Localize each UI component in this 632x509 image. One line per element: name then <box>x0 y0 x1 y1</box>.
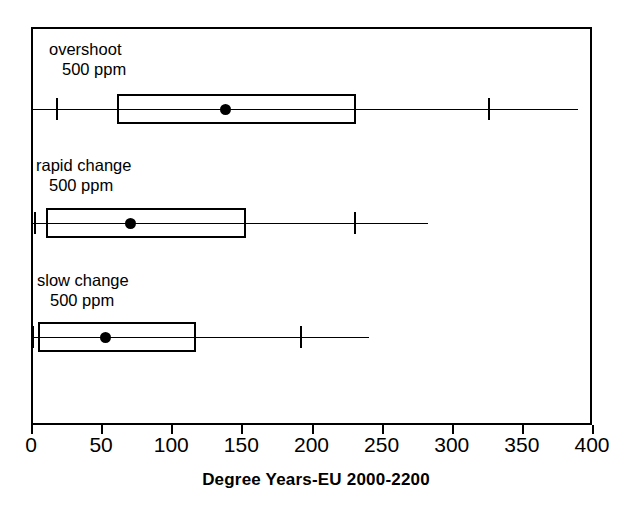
x-axis-label-150: 150 <box>224 433 259 457</box>
group-label-slow-change-line2: 500 ppm <box>37 290 129 310</box>
x-axis-tick-labels: 0 50 100 150 200 250 300 350 400 <box>0 433 632 461</box>
group-label-rapid-change-line2: 500 ppm <box>36 175 131 195</box>
x-axis-label-350: 350 <box>504 433 539 457</box>
median-marker-rapid-change <box>125 218 136 229</box>
x-axis-label-250: 250 <box>364 433 399 457</box>
x-axis-label-50: 50 <box>89 433 112 457</box>
whisker-cap-low-slow-change <box>32 326 34 348</box>
box-slow-change <box>38 322 196 352</box>
x-axis-label-400: 400 <box>574 433 609 457</box>
group-label-rapid-change: rapid change 500 ppm <box>36 155 131 195</box>
whisker-cap-high-rapid-change <box>354 212 356 234</box>
plot-area: overshoot 500 ppm rapid change 500 ppm s… <box>31 27 592 425</box>
group-label-slow-change-line1: slow change <box>37 270 129 290</box>
whisker-cap-low-rapid-change <box>34 212 36 234</box>
group-label-rapid-change-line1: rapid change <box>36 155 131 175</box>
x-axis-label-200: 200 <box>294 433 329 457</box>
box-rapid-change <box>46 208 245 238</box>
x-axis-title: Degree Years-EU 2000-2200 <box>0 470 632 490</box>
group-label-overshoot-line1: overshoot <box>49 39 126 59</box>
x-axis-label-300: 300 <box>434 433 469 457</box>
boxplot-chart: overshoot 500 ppm rapid change 500 ppm s… <box>0 0 632 509</box>
group-label-overshoot: overshoot 500 ppm <box>49 39 126 79</box>
group-label-overshoot-line2: 500 ppm <box>49 59 126 79</box>
x-axis-label-0: 0 <box>25 433 37 457</box>
group-label-slow-change: slow change 500 ppm <box>37 270 129 310</box>
median-marker-slow-change <box>100 332 111 343</box>
whisker-cap-high-overshoot <box>488 98 490 120</box>
box-overshoot <box>117 94 357 124</box>
median-marker-overshoot <box>220 104 231 115</box>
x-axis-label-100: 100 <box>154 433 189 457</box>
whisker-cap-low-overshoot <box>56 98 58 120</box>
whisker-cap-high-slow-change <box>300 326 302 348</box>
